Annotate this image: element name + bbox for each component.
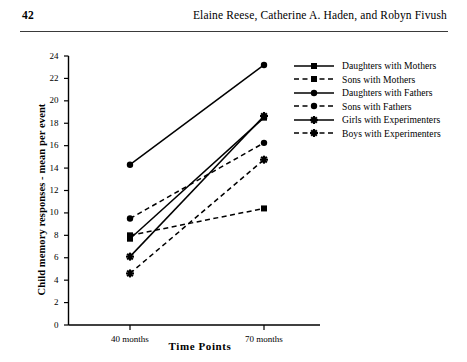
y-tick-label: 12 xyxy=(37,186,59,195)
legend-label: Boys with Experimenters xyxy=(336,128,441,139)
square-marker xyxy=(311,63,317,69)
y-tick-label: 20 xyxy=(37,96,59,105)
star-marker xyxy=(126,269,134,277)
series-line xyxy=(130,118,264,239)
legend-line-sample xyxy=(292,73,336,85)
y-tick-label: 0 xyxy=(37,321,59,330)
square-marker xyxy=(311,76,317,82)
chart-series xyxy=(127,62,267,168)
star-marker xyxy=(260,156,268,164)
series-line xyxy=(130,65,264,165)
y-tick-label: 24 xyxy=(37,52,59,61)
series-line xyxy=(130,143,264,219)
page-number: 42 xyxy=(22,9,34,21)
legend-line-sample xyxy=(292,60,336,72)
y-tick-label: 18 xyxy=(37,119,59,128)
legend-item[interactable]: Sons with Fathers xyxy=(292,100,441,114)
y-tick-label: 6 xyxy=(37,253,59,262)
chart-axes xyxy=(69,56,321,325)
chart-series xyxy=(126,156,268,278)
y-tick-label: 22 xyxy=(37,74,59,83)
chart-legend: Daughters with MothersSons with MothersD… xyxy=(292,59,441,140)
square-marker xyxy=(127,232,133,238)
x-axis-ticks xyxy=(130,325,264,330)
star-marker xyxy=(260,112,268,120)
x-tick-label: 40 months xyxy=(85,335,175,344)
circle-marker xyxy=(127,162,133,168)
star-marker xyxy=(310,129,318,137)
running-head-title: Elaine Reese, Catherine A. Haden, and Ro… xyxy=(193,9,447,21)
circle-marker xyxy=(261,62,267,68)
series-line xyxy=(130,116,264,257)
legend-line-sample xyxy=(292,114,336,126)
legend-item[interactable]: Daughters with Mothers xyxy=(292,59,441,73)
legend-line-sample xyxy=(292,127,336,139)
y-tick-label: 16 xyxy=(37,141,59,150)
circle-marker xyxy=(261,140,267,146)
square-marker xyxy=(261,205,267,211)
y-tick-label: 10 xyxy=(37,208,59,217)
series-line xyxy=(130,160,264,274)
legend-label: Girls with Experimenters xyxy=(336,114,440,125)
series-line xyxy=(130,208,264,235)
y-tick-label: 4 xyxy=(37,276,59,285)
legend-label: Sons with Fathers xyxy=(336,101,412,112)
circle-marker xyxy=(311,103,317,109)
chart-series xyxy=(126,112,268,261)
chart-series-layer xyxy=(126,62,268,278)
circle-marker xyxy=(311,90,317,96)
y-tick-label: 14 xyxy=(37,164,59,173)
legend-item[interactable]: Boys with Experimenters xyxy=(292,127,441,141)
legend-label: Daughters with Fathers xyxy=(336,87,433,98)
legend-item[interactable]: Girls with Experimenters xyxy=(292,113,441,127)
legend-line-sample xyxy=(292,87,336,99)
legend-label: Sons with Mothers xyxy=(336,74,415,85)
legend-item[interactable]: Daughters with Fathers xyxy=(292,86,441,100)
y-tick-label: 8 xyxy=(37,231,59,240)
circle-marker xyxy=(127,215,133,221)
star-marker xyxy=(126,253,134,261)
line-chart-figure: Child memory responses - mean per event … xyxy=(0,34,467,362)
header-divider xyxy=(20,31,448,32)
legend-label: Daughters with Mothers xyxy=(336,60,436,71)
y-tick-label: 2 xyxy=(37,298,59,307)
legend-item[interactable]: Sons with Mothers xyxy=(292,73,441,87)
x-tick-label: 70 months xyxy=(219,335,309,344)
star-marker xyxy=(310,116,318,124)
page-header: 42 Elaine Reese, Catherine A. Haden, and… xyxy=(0,0,467,34)
legend-line-sample xyxy=(292,100,336,112)
